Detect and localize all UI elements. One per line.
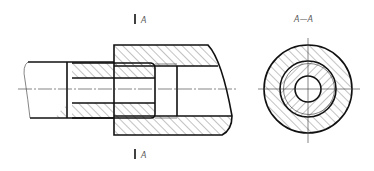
shaft-break-fill xyxy=(55,105,67,118)
section-marker-bottom-label: A xyxy=(140,151,146,160)
section-view-title: A—A xyxy=(293,15,313,24)
sleeve-top-wall xyxy=(72,63,155,78)
housing-bottom-wall xyxy=(114,116,232,135)
section-marker-top-label: A xyxy=(140,16,146,25)
section-marker-top: A xyxy=(135,14,146,25)
longitudinal-section-view xyxy=(18,45,238,135)
drawing-canvas: A A A—A xyxy=(0,0,374,171)
sleeve-bottom-wall xyxy=(72,103,155,118)
cross-section-view: A—A xyxy=(258,15,360,143)
section-marker-bottom: A xyxy=(135,149,146,160)
